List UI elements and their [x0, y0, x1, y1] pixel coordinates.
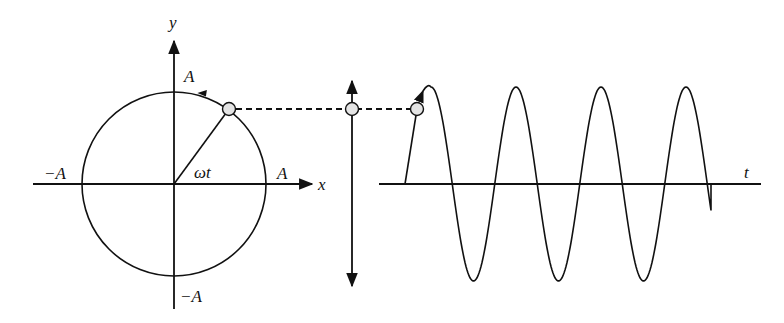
label-bottom-neg-a: −A [180, 287, 202, 306]
angle-label: ωt [194, 163, 212, 182]
wave-panel: t [379, 86, 761, 281]
label-right-a: A [276, 164, 288, 183]
wave-direction-arrow [419, 91, 423, 101]
ball-on-wave [411, 103, 424, 116]
wave-leading-segment [405, 109, 417, 184]
t-axis-label: t [744, 163, 750, 182]
ball-projection [346, 103, 359, 116]
y-axis-label: y [167, 13, 177, 32]
x-axis-label: x [317, 175, 326, 194]
circle-panel: y x A A −A −A ωt [33, 13, 326, 309]
ball-on-circle [223, 103, 236, 116]
label-left-neg-a: −A [44, 164, 66, 183]
shm-diagram: y x A A −A −A ωt t [0, 0, 784, 323]
label-top-a: A [183, 67, 195, 86]
